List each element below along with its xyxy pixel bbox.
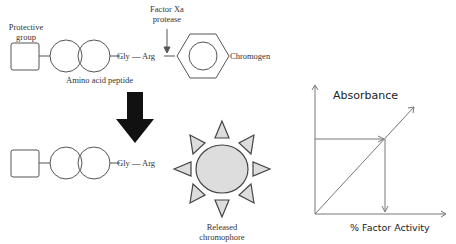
residue-gly: Gly bbox=[117, 158, 130, 168]
label-line: protease bbox=[149, 14, 185, 24]
bond: — bbox=[132, 51, 141, 61]
protective-group-box bbox=[11, 43, 39, 70]
peptide-label: Amino acid peptide bbox=[66, 75, 133, 85]
residue-arg: Arg bbox=[142, 51, 155, 61]
product-residues: Gly — Arg bbox=[117, 158, 155, 168]
substrate-residues: Gly — Arg bbox=[117, 51, 155, 61]
chromogen-label: Chromogen bbox=[230, 51, 270, 61]
label-line: Protective bbox=[4, 22, 48, 32]
label-line: group bbox=[4, 32, 48, 42]
label-line: chromophore bbox=[196, 232, 248, 242]
reaction-arrow bbox=[116, 92, 154, 143]
residue-arg: Arg bbox=[142, 158, 155, 168]
diagram-canvas bbox=[0, 0, 456, 244]
bond: — bbox=[132, 158, 141, 168]
label-line: Factor Xa bbox=[149, 4, 185, 14]
amino-acid-circle-1 bbox=[50, 40, 82, 72]
label-line: Released bbox=[196, 222, 248, 232]
chromophore-sun bbox=[174, 121, 270, 217]
amino-acid-circle-2 bbox=[78, 40, 110, 72]
residue-gly: Gly bbox=[117, 51, 130, 61]
y-axis-label: Absorbance bbox=[333, 89, 398, 102]
absorbance-graph bbox=[312, 85, 446, 217]
protective-group-label: Protective group bbox=[4, 22, 48, 42]
chromophore-label: Released chromophore bbox=[196, 222, 248, 242]
benzene-ring bbox=[177, 34, 229, 78]
x-axis-label: % Factor Activity bbox=[350, 222, 430, 234]
product-molecule bbox=[11, 147, 120, 179]
enzyme-label: Factor Xa protease bbox=[149, 4, 185, 24]
